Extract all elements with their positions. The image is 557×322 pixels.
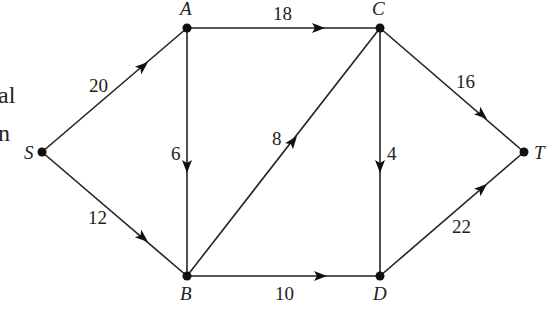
node-a: [183, 24, 192, 33]
edge-s-b: [42, 152, 187, 276]
edge-c-t: [380, 28, 524, 152]
node-label-c: C: [372, 0, 385, 19]
capacity-d-t: 22: [452, 216, 471, 237]
node-t: [520, 148, 529, 157]
edge-s-a: [42, 28, 187, 152]
capacity-a-c: 18: [273, 3, 292, 24]
capacity-s-b: 12: [88, 207, 107, 228]
flow-network-diagram: al n S A C T B D 20 12 18 6 8 10 4 16 22: [0, 0, 557, 322]
node-c: [376, 24, 385, 33]
edge-b-c: [187, 28, 380, 276]
node-label-d: D: [372, 283, 387, 304]
node-label-s: S: [24, 142, 34, 163]
capacity-c-d: 4: [387, 143, 397, 164]
capacity-a-b: 6: [171, 143, 181, 164]
capacity-b-d: 10: [275, 283, 294, 304]
node-label-t: T: [534, 142, 546, 163]
node-label-b: B: [180, 283, 192, 304]
edge-d-t: [380, 152, 524, 276]
node-d: [376, 272, 385, 281]
capacity-c-t: 16: [456, 71, 475, 92]
node-label-a: A: [178, 0, 192, 19]
text-fragment-1: al: [0, 82, 16, 108]
capacity-b-c: 8: [272, 128, 282, 149]
node-b: [183, 272, 192, 281]
node-s: [38, 148, 47, 157]
capacity-s-a: 20: [89, 75, 108, 96]
text-fragment-2: n: [0, 120, 10, 146]
